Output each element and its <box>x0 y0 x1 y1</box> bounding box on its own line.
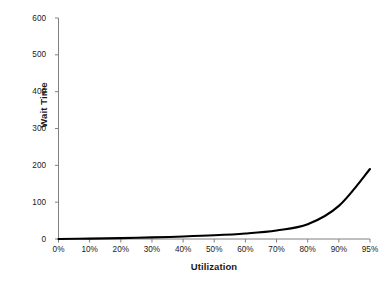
wait-time-curve <box>59 169 371 239</box>
x-axis-ticks <box>59 239 371 243</box>
chart-container: Wait Time 0100200300400500600 0%10%20%30… <box>0 0 391 285</box>
y-axis-ticks <box>55 18 59 239</box>
plot-area <box>0 0 391 285</box>
axis-lines <box>59 18 371 239</box>
